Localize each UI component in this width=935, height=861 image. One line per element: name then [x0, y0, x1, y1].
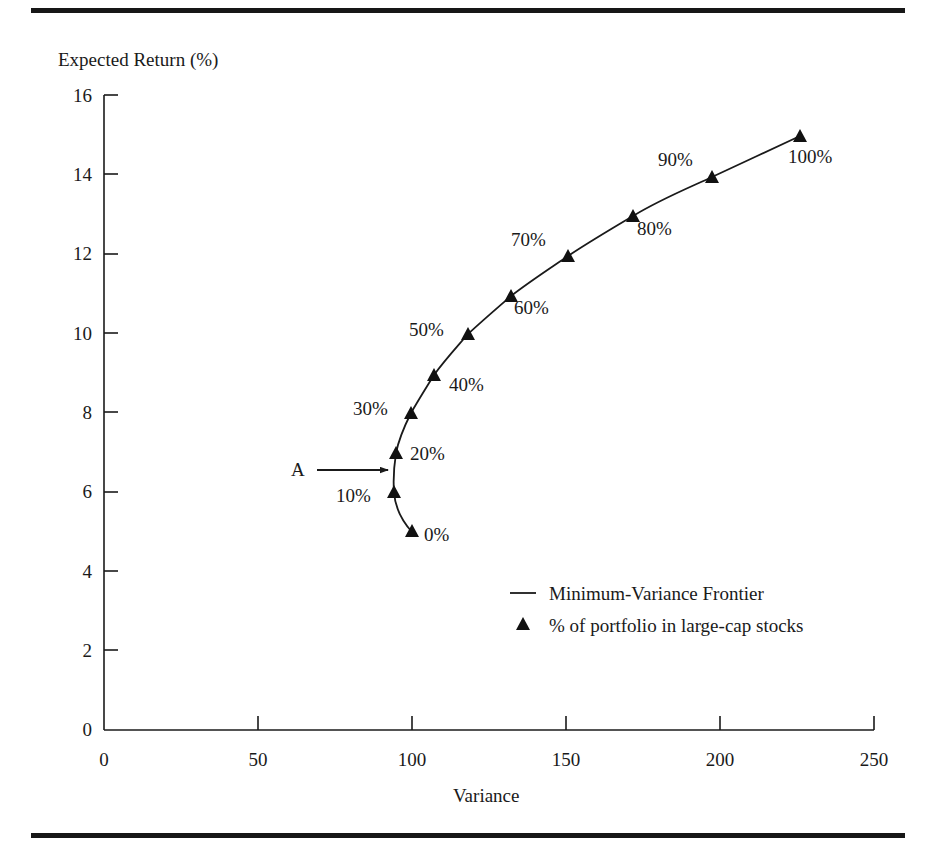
legend-entry-markers-label: % of portfolio in large-cap stocks: [549, 616, 804, 635]
point-label-0-percent: 0%: [424, 525, 449, 544]
point-label-60-percent: 60%: [514, 298, 549, 317]
marker-100-percent: [793, 129, 807, 142]
point-label-30-percent: 30%: [353, 399, 388, 418]
y-axis-ticks: [104, 95, 118, 650]
figure-container: Expected Return (%) Variance 16 14 12 10…: [0, 0, 935, 861]
point-label-20-percent: 20%: [410, 444, 445, 463]
marker-30-percent: [404, 406, 418, 419]
plot-area: [0, 0, 935, 861]
data-point-markers: [387, 129, 807, 537]
legend-entry-frontier-label: Minimum-Variance Frontier: [549, 584, 764, 603]
marker-20-percent: [389, 446, 403, 459]
point-label-90-percent: 90%: [658, 150, 693, 169]
minimum-variance-frontier-curve: [394, 136, 800, 532]
point-label-80-percent: 80%: [637, 219, 672, 238]
legend-triangle-symbol: [516, 617, 530, 630]
point-label-70-percent: 70%: [511, 230, 546, 249]
point-label-100-percent: 100%: [788, 147, 832, 166]
marker-90-percent: [705, 170, 719, 183]
point-label-40-percent: 40%: [449, 375, 484, 394]
x-axis-ticks: [258, 716, 874, 730]
point-label-50-percent: 50%: [409, 320, 444, 339]
point-label-10-percent: 10%: [336, 486, 371, 505]
marker-70-percent: [561, 249, 575, 262]
marker-10-percent: [387, 485, 401, 498]
annotation-label-a: A: [291, 460, 305, 479]
marker-40-percent: [427, 368, 441, 381]
